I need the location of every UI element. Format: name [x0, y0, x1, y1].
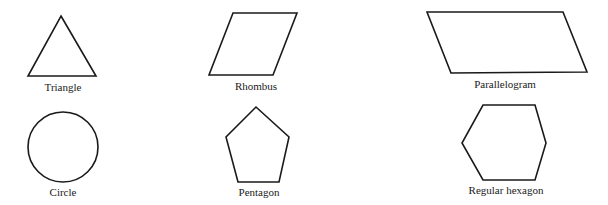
circle-shape [28, 112, 98, 182]
shapes-figure: Triangle Rhombus Parallelogram Circle Pe… [0, 0, 608, 205]
parallelogram-label: Parallelogram [474, 79, 536, 90]
hexagon-shape [462, 105, 546, 180]
shapes-drawing [0, 0, 608, 205]
triangle-label: Triangle [45, 82, 82, 93]
pentagon-shape [226, 107, 289, 182]
circle-label: Circle [50, 187, 77, 198]
pentagon-label: Pentagon [239, 187, 280, 198]
rhombus-shape [209, 13, 297, 75]
triangle-shape [28, 16, 96, 76]
regular-hexagon-label: Regular hexagon [469, 185, 544, 196]
parallelogram-shape [427, 12, 587, 73]
rhombus-label: Rhombus [235, 81, 277, 92]
